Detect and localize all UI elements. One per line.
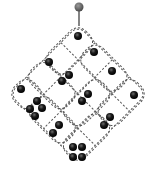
- dot-icon: [108, 67, 116, 75]
- dot-group-two-lower-left: [49, 121, 63, 137]
- grid-line: [27, 77, 96, 146]
- dot-icon: [78, 143, 86, 151]
- dot-group-one-upper-left: [45, 58, 53, 66]
- dot-icon: [130, 91, 138, 99]
- dot-icon: [78, 153, 86, 161]
- dashed-grid: [7, 23, 148, 164]
- dot-group-two-upper-center: [58, 71, 73, 85]
- dot-group-four-bottom: [69, 143, 86, 161]
- hanging-pin: [75, 3, 84, 27]
- dot-icon: [74, 32, 82, 40]
- grid-line: [44, 60, 113, 129]
- dot-icon: [49, 129, 57, 137]
- dot-group-one-right: [130, 91, 138, 99]
- dot-icon: [69, 143, 77, 151]
- dot-group-one-right-mid: [108, 67, 116, 75]
- dot-icon: [17, 85, 25, 93]
- dot-icon: [69, 153, 77, 161]
- dot-icon: [90, 48, 98, 56]
- pin-head-icon: [75, 3, 84, 12]
- dot-icon: [100, 121, 108, 129]
- dot-group-four-left: [26, 97, 46, 120]
- dot-icon: [84, 90, 92, 98]
- dot-icon: [26, 105, 34, 113]
- dot-icon: [106, 113, 114, 121]
- dot-icon: [65, 71, 73, 79]
- dot-icon: [45, 58, 53, 66]
- dot-icon: [33, 97, 41, 105]
- dot-group-one-left: [17, 85, 25, 93]
- dot-icon: [78, 97, 86, 105]
- dot-icon: [55, 121, 63, 129]
- dot-group-one-upper-right: [90, 48, 98, 56]
- dot-groups: [17, 32, 138, 161]
- dot-group-one-top: [74, 32, 82, 40]
- dot-icon: [31, 112, 39, 120]
- dot-icon: [38, 104, 46, 112]
- dot-icon: [58, 77, 66, 85]
- domino-diamond-diagram: [0, 0, 155, 171]
